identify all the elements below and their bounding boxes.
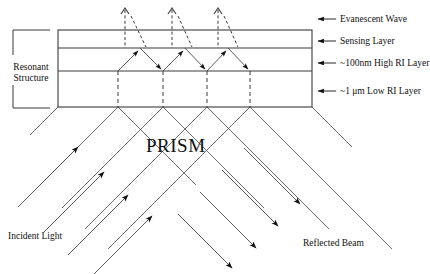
prism-label: PRISM (146, 140, 206, 151)
resonant-structure-label-line1: Resonant (6, 62, 56, 73)
sensing-layer-label: Sensing Layer (340, 36, 395, 47)
incident-rays (18, 147, 152, 274)
layer-stack (58, 30, 312, 107)
reflected-beam-label: Reflected Beam (303, 238, 364, 249)
evanescent-wave-label: Evanescent Wave (340, 14, 407, 25)
low-ri-layer-label: ~1 μm Low RI Layer (340, 86, 421, 97)
incident-light-label: Incident Light (8, 231, 62, 242)
callout-arrows (318, 19, 336, 91)
dashed-coupling-lines (118, 71, 250, 107)
high-ri-layer-label: ~100nm High RI Layer (340, 58, 429, 69)
resonant-structure-label-line2: Structure (6, 73, 56, 84)
resonant-structure-label: Resonant Structure (6, 62, 56, 84)
evanescent-wave-indicators (121, 8, 238, 48)
guided-zigzag-rays (118, 48, 248, 71)
prism-body-rays (30, 107, 392, 249)
reflected-rays (178, 148, 300, 268)
